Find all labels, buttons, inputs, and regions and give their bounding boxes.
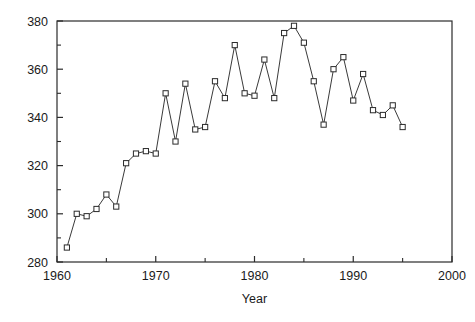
x-tick-label: 1960 xyxy=(43,269,71,283)
data-point-marker xyxy=(370,108,375,113)
data-point-marker xyxy=(84,214,89,219)
data-point-marker xyxy=(74,211,79,216)
x-tick-label: 1980 xyxy=(241,269,269,283)
data-point-marker xyxy=(331,67,336,72)
data-point-marker xyxy=(282,30,287,35)
data-point-marker xyxy=(311,79,316,84)
data-point-marker xyxy=(193,127,198,132)
data-point-marker xyxy=(262,57,267,62)
data-point-marker xyxy=(361,71,366,76)
chart-figure: 280300320340360380 19601970198019902000 … xyxy=(0,0,475,322)
data-point-marker xyxy=(341,55,346,60)
x-axis-title: Year xyxy=(242,292,267,306)
data-point-marker xyxy=(232,43,237,48)
data-point-marker xyxy=(143,149,148,154)
data-point-marker xyxy=(212,79,217,84)
data-point-marker xyxy=(163,91,168,96)
data-point-marker xyxy=(400,124,405,129)
data-point-marker xyxy=(173,139,178,144)
series-markers-1 xyxy=(64,23,405,250)
y-tick-label: 340 xyxy=(27,111,48,125)
data-point-marker xyxy=(94,206,99,211)
plot-frame xyxy=(57,21,452,262)
data-point-marker xyxy=(114,204,119,209)
x-axis: 19601970198019902000 xyxy=(43,256,466,283)
data-point-marker xyxy=(153,151,158,156)
data-point-marker xyxy=(301,40,306,45)
x-tick-label: 1970 xyxy=(142,269,170,283)
data-point-marker xyxy=(380,112,385,117)
data-point-marker xyxy=(104,192,109,197)
data-point-marker xyxy=(252,93,257,98)
y-axis: 280300320340360380 xyxy=(27,15,63,270)
data-point-marker xyxy=(321,122,326,127)
data-point-marker xyxy=(133,151,138,156)
data-point-marker xyxy=(222,96,227,101)
y-tick-label: 360 xyxy=(27,63,48,77)
y-tick-label: 280 xyxy=(27,256,48,270)
data-point-marker xyxy=(242,91,247,96)
data-point-marker xyxy=(64,245,69,250)
data-point-marker xyxy=(291,23,296,28)
data-point-marker xyxy=(203,124,208,129)
data-point-marker xyxy=(124,161,129,166)
x-tick-label: 2000 xyxy=(438,269,466,283)
data-series-group xyxy=(64,23,405,250)
y-tick-label: 320 xyxy=(27,159,48,173)
data-point-marker xyxy=(272,96,277,101)
y-tick-label: 380 xyxy=(27,15,48,29)
y-tick-label: 300 xyxy=(27,207,48,221)
series-line-1 xyxy=(67,26,403,248)
x-tick-label: 1990 xyxy=(339,269,367,283)
line-chart-plot: 280300320340360380 19601970198019902000 … xyxy=(0,0,475,322)
data-point-marker xyxy=(390,103,395,108)
data-point-marker xyxy=(351,98,356,103)
data-point-marker xyxy=(183,81,188,86)
